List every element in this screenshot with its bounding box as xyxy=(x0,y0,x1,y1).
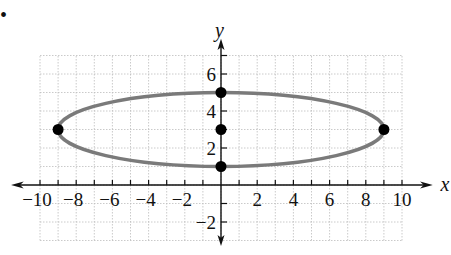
axes xyxy=(11,39,433,246)
x-axis-label: x xyxy=(439,173,449,195)
x-tick-label: −6 xyxy=(99,189,119,210)
x-tick-label: 2 xyxy=(252,189,262,210)
data-point xyxy=(216,87,227,98)
x-tick-label: 8 xyxy=(361,189,371,210)
ellipse-graph: −10−8−6−4−2246810−2246xy xyxy=(0,0,451,255)
data-point xyxy=(53,124,64,135)
data-point xyxy=(216,161,227,172)
data-point xyxy=(216,124,227,135)
x-tick-label: −2 xyxy=(172,189,192,210)
y-tick-label: −2 xyxy=(196,212,216,233)
x-tick-label: −8 xyxy=(63,189,83,210)
y-axis-label: y xyxy=(213,19,224,42)
data-point xyxy=(378,124,389,135)
x-tick-label: −10 xyxy=(22,189,52,210)
x-tick-label: 4 xyxy=(289,189,299,210)
x-tick-label: 6 xyxy=(325,189,335,210)
y-tick-label: 2 xyxy=(207,138,217,159)
x-tick-label: −4 xyxy=(135,189,156,210)
x-tick-label: 10 xyxy=(393,189,412,210)
y-tick-label: 4 xyxy=(207,101,217,122)
y-tick-label: 6 xyxy=(207,64,217,85)
